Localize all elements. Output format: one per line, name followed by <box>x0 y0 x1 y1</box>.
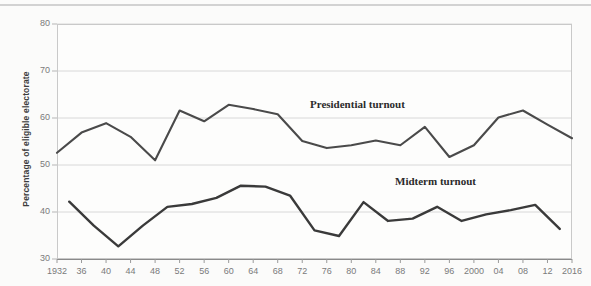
series-annotation-midterm: Midterm turnout <box>395 175 476 187</box>
series-annotation-presidential: Presidential turnout <box>310 98 405 110</box>
plot-canvas <box>0 0 591 286</box>
turnout-line-chart: Percentage of eligible electorate 807060… <box>0 0 591 286</box>
